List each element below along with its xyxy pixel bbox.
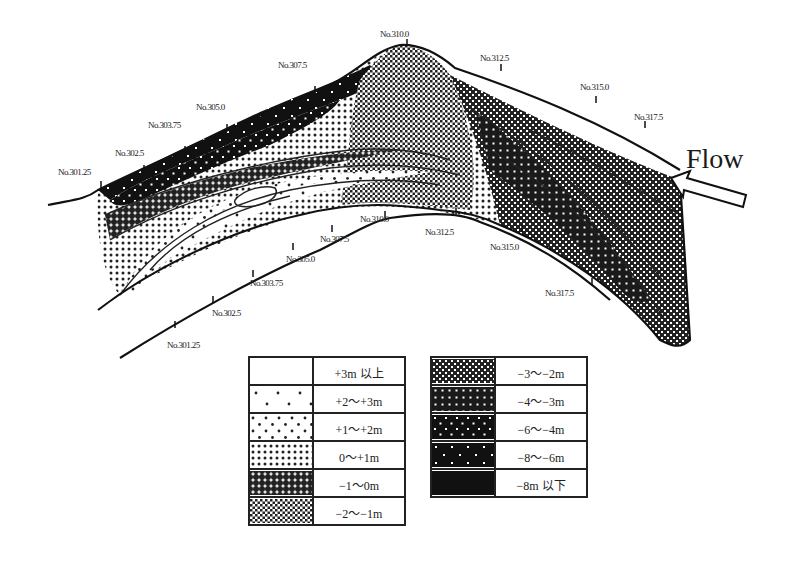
swatch-sparse-dots bbox=[249, 385, 313, 413]
legend-row: −6～−4m bbox=[431, 413, 587, 441]
station-label-outer-4: No.307.5 bbox=[278, 60, 308, 70]
legend-label: −4～−3m bbox=[495, 385, 587, 413]
legend-row: −3～−2m bbox=[431, 357, 587, 385]
station-label-inner-1: No.302.5 bbox=[212, 308, 242, 318]
station-label-outer-2: No.303.75 bbox=[148, 120, 182, 130]
swatch-black bbox=[431, 469, 495, 497]
legend-row: −4～−3m bbox=[431, 385, 587, 413]
station-label-inner-5: No.310.0 bbox=[360, 214, 390, 224]
legend-row: −8～−6m bbox=[431, 441, 587, 469]
swatch-dense-dots bbox=[249, 469, 313, 497]
legend-row: +1～+2m bbox=[249, 413, 405, 441]
station-label-outer-1: No.302.5 bbox=[115, 148, 145, 158]
legend-row: 0～+1m bbox=[249, 441, 405, 469]
swatch-dark-grid-dots bbox=[431, 385, 495, 413]
station-label-outer-5: No.310.0 bbox=[380, 29, 410, 39]
station-label-outer-0: No.301.25 bbox=[58, 167, 92, 177]
swatch-white bbox=[249, 357, 313, 385]
legend-label: 0～+1m bbox=[313, 441, 405, 469]
legend-row: −1～0m bbox=[249, 469, 405, 497]
station-label-inner-6: No.312.5 bbox=[425, 227, 455, 237]
legend-label: −3～−2m bbox=[495, 357, 587, 385]
legend-label: −1～0m bbox=[313, 469, 405, 497]
swatch-dark-checker bbox=[431, 357, 495, 385]
legend-row: −2～−1m bbox=[249, 497, 405, 525]
legend-row: −8m 以下 bbox=[431, 469, 587, 497]
legend-label: −8～−6m bbox=[495, 441, 587, 469]
swatch-light-dots bbox=[249, 413, 313, 441]
station-label-inner-2: No.303.75 bbox=[250, 278, 284, 288]
legend-label: −6～−4m bbox=[495, 413, 587, 441]
legend-label: +1～+2m bbox=[313, 413, 405, 441]
legend-row: +2～+3m bbox=[249, 385, 405, 413]
swatch-checker bbox=[249, 497, 313, 525]
station-label-outer-6: No.312.5 bbox=[480, 53, 510, 63]
legend-label: +2～+3m bbox=[313, 385, 405, 413]
legend-row: +3m 以上 bbox=[249, 357, 405, 385]
legend-right: −3～−2m −4～−3m −6～−4m −8～−6m −8m 以下 bbox=[430, 356, 588, 498]
legend-label: −2～−1m bbox=[313, 497, 405, 525]
station-label-outer-3: No.305.0 bbox=[196, 102, 226, 112]
swatch-dark-sparse-dots bbox=[431, 441, 495, 469]
swatch-medium-dots bbox=[249, 441, 313, 469]
station-label-outer-8: No.317.5 bbox=[634, 112, 664, 122]
legend-label: −8m 以下 bbox=[495, 469, 587, 497]
legend-label: +3m 以上 bbox=[313, 357, 405, 385]
station-label-inner-7: No.315.0 bbox=[490, 242, 520, 252]
station-label-inner-0: No.301.25 bbox=[167, 340, 201, 350]
station-label-inner-8: No.317.5 bbox=[545, 288, 575, 298]
station-label-outer-7: No.315.0 bbox=[580, 82, 610, 92]
legend-left: +3m 以上 +2～+3m +1～+2m 0～+1m −1～0m −2～−1m bbox=[248, 356, 406, 526]
flow-label: Flow bbox=[686, 143, 744, 174]
swatch-dark-dots bbox=[431, 413, 495, 441]
station-label-inner-4: No.307.5 bbox=[320, 234, 350, 244]
station-label-inner-3: No.305.0 bbox=[286, 254, 316, 264]
